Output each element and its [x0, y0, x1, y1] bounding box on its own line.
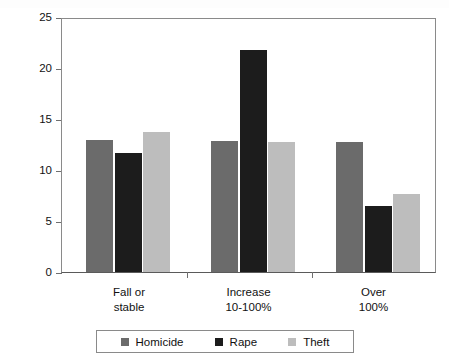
- legend-label-homicide: Homicide: [136, 336, 184, 348]
- scan-artifact: [0, 0, 449, 8]
- y-tick-label-25: 25: [12, 11, 52, 23]
- legend-item-theft[interactable]: Theft: [288, 336, 329, 348]
- legend-item-rape[interactable]: Rape: [215, 336, 258, 348]
- legend-label-rape: Rape: [230, 336, 258, 348]
- x-group-label-0: Fall or stable: [69, 285, 189, 314]
- bar-rape-group-1: [240, 50, 267, 272]
- x-tick-divider-2: [312, 272, 313, 278]
- y-tick-label-15: 15: [12, 113, 52, 125]
- bar-homicide-group-2: [336, 142, 363, 272]
- y-tick-label-10: 10: [12, 164, 52, 176]
- plot-area: [61, 18, 436, 273]
- bar-homicide-group-0: [86, 140, 113, 272]
- y-tick-label-0: 0: [12, 266, 52, 278]
- bar-rape-group-0: [115, 153, 142, 272]
- legend-swatch-icon-theft: [288, 338, 296, 346]
- bar-homicide-group-1: [211, 141, 238, 272]
- legend-item-homicide[interactable]: Homicide: [121, 336, 184, 348]
- bar-theft-group-1: [268, 142, 295, 272]
- legend-label-theft: Theft: [303, 336, 329, 348]
- x-group-label-2: Over 100%: [311, 285, 436, 314]
- x-tick-divider-1: [187, 272, 188, 278]
- x-group-label-1: Increase 10-100%: [186, 285, 311, 314]
- legend-swatch-icon-rape: [215, 338, 223, 346]
- legend: Homicide Rape Theft: [96, 330, 354, 353]
- bar-rape-group-2: [365, 206, 392, 272]
- y-tick-label-5: 5: [12, 215, 52, 227]
- bar-theft-group-0: [143, 132, 170, 272]
- bar-theft-group-2: [393, 194, 420, 272]
- bar-chart: Number of countries 25 20 15 10 5 0: [0, 0, 449, 362]
- legend-swatch-icon-homicide: [121, 338, 129, 346]
- y-tick-label-20: 20: [12, 62, 52, 74]
